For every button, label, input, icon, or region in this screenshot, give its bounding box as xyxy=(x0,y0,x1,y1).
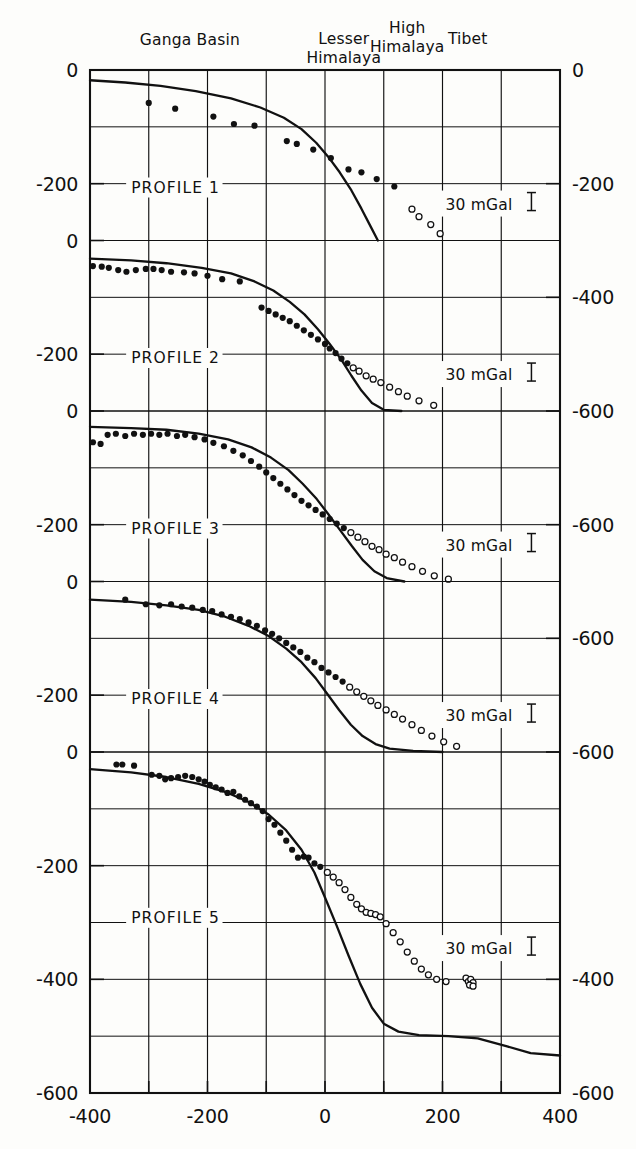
data-point-filled xyxy=(231,121,237,127)
observed-open-points xyxy=(348,530,452,583)
y-axis-label-right: 0 xyxy=(572,59,584,81)
data-point-filled xyxy=(189,774,195,780)
data-point-open xyxy=(395,389,401,395)
data-point-open xyxy=(378,380,384,386)
y-axis-label-right: -600 xyxy=(572,1082,614,1104)
data-point-filled xyxy=(320,511,326,517)
data-point-filled xyxy=(328,155,334,161)
observed-filled-points xyxy=(113,761,323,870)
profile-label: PROFILE 1 xyxy=(131,179,220,197)
data-point-filled xyxy=(191,434,197,440)
data-point-filled xyxy=(273,311,279,317)
profile-label: PROFILE 2 xyxy=(131,349,220,367)
y-axis-label-left: -400 xyxy=(36,968,78,990)
data-point-open xyxy=(361,693,367,699)
data-point-filled xyxy=(230,789,236,795)
data-point-filled xyxy=(289,847,295,853)
data-point-filled xyxy=(200,607,206,613)
data-point-open xyxy=(383,707,389,713)
data-point-filled xyxy=(284,486,290,492)
data-point-filled xyxy=(248,800,254,806)
data-point-open xyxy=(409,722,415,728)
region-label-tibet: Tibet xyxy=(447,30,488,48)
data-point-open xyxy=(356,368,362,374)
data-point-filled xyxy=(219,276,225,282)
data-point-open xyxy=(420,568,426,574)
data-point-open xyxy=(347,684,353,690)
observed-filled-points xyxy=(90,431,347,532)
data-point-filled xyxy=(277,481,283,487)
data-point-filled xyxy=(256,464,262,470)
data-point-open xyxy=(390,930,396,936)
y-axis-label-left: 0 xyxy=(66,741,78,763)
data-point-filled xyxy=(358,169,364,175)
data-point-filled xyxy=(283,838,289,844)
data-point-filled xyxy=(240,452,246,458)
y-axis-label-left: 0 xyxy=(66,230,78,252)
data-point-open xyxy=(348,894,354,900)
data-point-open xyxy=(409,564,415,570)
data-point-open xyxy=(404,393,410,399)
data-point-filled xyxy=(271,822,277,828)
data-point-filled xyxy=(317,864,323,870)
data-point-filled xyxy=(237,616,243,622)
data-point-filled xyxy=(143,266,149,272)
model-curve xyxy=(90,427,404,582)
data-point-filled xyxy=(156,773,162,779)
y-axis-label-left: -200 xyxy=(36,855,78,877)
data-point-filled xyxy=(133,267,139,273)
data-point-open xyxy=(397,939,403,945)
data-point-filled xyxy=(172,106,178,112)
data-point-open xyxy=(429,733,435,739)
data-point-open xyxy=(342,887,348,893)
data-point-filled xyxy=(140,432,146,438)
y-axis-label-right: -200 xyxy=(572,173,614,195)
data-point-filled xyxy=(182,432,188,438)
data-point-open xyxy=(363,373,369,379)
data-point-open xyxy=(428,222,434,228)
x-axis-label: -400 xyxy=(69,1105,111,1127)
data-point-filled xyxy=(123,269,129,275)
data-point-filled xyxy=(374,176,380,182)
data-point-filled xyxy=(338,356,344,362)
data-point-open xyxy=(400,716,406,722)
data-point-filled xyxy=(113,761,119,767)
data-point-filled xyxy=(344,360,350,366)
y-axis-label-right: -400 xyxy=(572,968,614,990)
data-point-filled xyxy=(122,433,128,439)
data-point-open xyxy=(418,727,424,733)
data-point-filled xyxy=(119,761,125,767)
data-point-filled xyxy=(283,640,289,646)
data-point-filled xyxy=(269,631,275,637)
data-point-filled xyxy=(304,655,310,661)
data-point-filled xyxy=(277,830,283,836)
data-point-filled xyxy=(311,659,317,665)
data-point-filled xyxy=(262,627,268,633)
data-point-filled xyxy=(219,786,225,792)
data-point-filled xyxy=(179,603,185,609)
data-point-open xyxy=(369,543,375,549)
data-point-filled xyxy=(251,123,257,129)
x-axis-label: 0 xyxy=(319,1105,331,1127)
data-point-filled xyxy=(131,431,137,437)
data-point-filled xyxy=(295,855,301,861)
data-point-open xyxy=(336,880,342,886)
data-point-open xyxy=(443,979,449,985)
data-point-open xyxy=(404,949,410,955)
data-point-filled xyxy=(210,114,216,120)
data-point-open xyxy=(418,966,424,972)
data-point-filled xyxy=(311,860,317,866)
data-point-filled xyxy=(201,436,207,442)
data-point-filled xyxy=(162,776,168,782)
y-axis-label-left: -200 xyxy=(36,514,78,536)
data-point-open xyxy=(409,206,415,212)
data-point-filled xyxy=(196,776,202,782)
data-point-filled xyxy=(175,774,181,780)
gravity-profile-figure: Ganga BasinLesserHimalayaHighHimalayaTib… xyxy=(0,0,636,1149)
data-point-filled xyxy=(191,270,197,276)
data-point-open xyxy=(350,365,356,371)
data-point-filled xyxy=(90,263,96,269)
data-point-filled xyxy=(242,797,248,803)
scale-bar-label: 30 mGal xyxy=(445,366,512,384)
data-point-filled xyxy=(276,635,282,641)
